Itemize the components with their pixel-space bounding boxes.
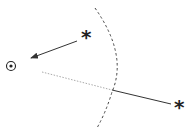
boundary-arc bbox=[95, 8, 117, 128]
far-star-light-faded bbox=[42, 72, 112, 90]
far-star-icon: * bbox=[174, 97, 184, 117]
far-star-light-solid bbox=[112, 90, 171, 104]
near-star-icon: * bbox=[81, 27, 91, 47]
diagram-canvas bbox=[0, 0, 196, 133]
near-star-light-arrow bbox=[31, 41, 77, 58]
observer-dot bbox=[9, 64, 12, 67]
